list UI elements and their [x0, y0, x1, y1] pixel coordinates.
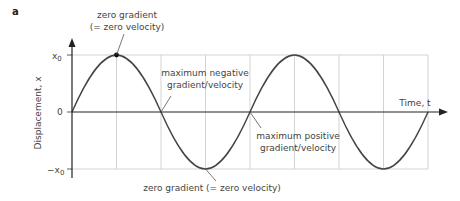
annotation-negative-line2: gradient/velocity [167, 80, 244, 90]
displacement-time-graph: a zero gradient (= zero velocity) [0, 0, 460, 201]
annotation-top-line2: (= zero velocity) [90, 22, 165, 32]
x-axis-label: Time, t [398, 98, 431, 108]
annotation-bottom: zero gradient (= zero velocity) [143, 183, 281, 193]
panel-label: a [12, 6, 19, 17]
tick-label-neg-x0: −x0 [47, 165, 64, 177]
annotation-positive-line2: gradient/velocity [260, 143, 337, 153]
axes [69, 38, 449, 178]
annotation-top-line1: zero gradient [97, 10, 158, 20]
annotation-negative-line1: maximum negative [161, 68, 249, 78]
tick-label-zero: 0 [57, 107, 63, 117]
y-ticks [67, 55, 72, 169]
tick-label-x0: x0 [52, 51, 62, 63]
y-axis-label: Displacement, x [33, 76, 43, 150]
annotation-positive-line1: maximum positive [256, 131, 340, 141]
